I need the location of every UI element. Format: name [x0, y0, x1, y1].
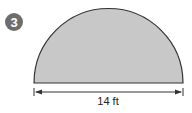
semicircle-shape: [34, 9, 183, 83]
semicircle-figure: 3 14 ft: [0, 0, 192, 113]
problem-number-badge: 3: [5, 13, 23, 31]
dimension-label: 14 ft: [97, 95, 118, 107]
problem-number: 3: [10, 15, 17, 30]
